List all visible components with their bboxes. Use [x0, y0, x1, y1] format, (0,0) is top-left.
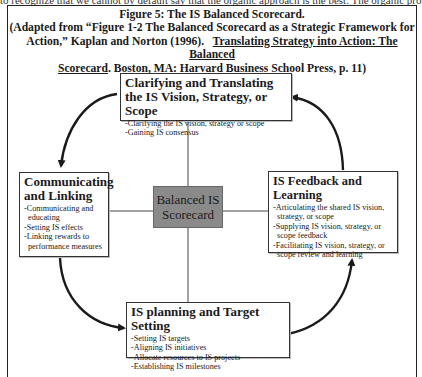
arrow-right-to-top-icon: [292, 97, 343, 170]
box-items: -Setting IS targets -Aligning IS initiat…: [131, 334, 285, 372]
box-title: IS Feedback and Learning: [273, 174, 393, 202]
box-title: Clarifying and Translating the IS Vision…: [125, 76, 287, 118]
list-item: -Establishing IS milestones: [131, 362, 285, 371]
box-items: -Communicating and educating -Setting IS…: [24, 204, 104, 251]
list-item: -Supplying IS vision, strategy, or scope…: [273, 222, 393, 241]
list-item: -Setting IS effects: [24, 223, 104, 232]
balanced-scorecard-center: Balanced IS Scorecard: [153, 186, 223, 228]
box-items: -Articulating the shared IS vision, stra…: [273, 203, 393, 259]
list-item: -Aligning IS initiatives: [131, 343, 285, 352]
list-item: -Facilitating IS vision, strategy, or sc…: [273, 241, 393, 260]
list-item: -Communicating and educating: [24, 204, 104, 223]
box-title: IS planning and Target Setting: [131, 305, 285, 333]
list-item: -Allocate resources to IS projects: [131, 353, 285, 362]
box-items: -Clarifying the IS vision, strategy or s…: [125, 119, 287, 138]
box-communicating-linking: Communicating and Linking -Communicating…: [19, 172, 109, 257]
arrow-top-to-left-icon: [61, 94, 117, 166]
list-item: -Gaining IS consensus: [125, 128, 287, 137]
list-item: -Setting IS targets: [131, 334, 285, 343]
arrow-bottom-to-right-icon: [288, 260, 352, 334]
center-label-line1: Balanced IS: [154, 192, 222, 207]
center-label-line2: Scorecard: [154, 207, 222, 222]
list-item: -Articulating the shared IS vision, stra…: [273, 203, 393, 222]
box-feedback-learning: IS Feedback and Learning -Articulating t…: [268, 171, 398, 253]
box-clarifying-translating: Clarifying and Translating the IS Vision…: [120, 73, 292, 121]
box-planning-target-setting: IS planning and Target Setting -Setting …: [126, 302, 290, 358]
box-title: Communicating and Linking: [24, 175, 104, 203]
list-item: -Linking rewards to performance measures: [24, 232, 104, 251]
list-item: -Clarifying the IS vision, strategy or s…: [125, 119, 287, 128]
arrow-left-to-bottom-icon: [60, 258, 124, 328]
